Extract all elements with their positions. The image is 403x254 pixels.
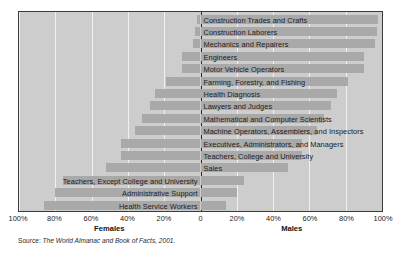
category-label: Machine Operators, Assemblers, and Inspe… xyxy=(204,125,364,138)
bar-female xyxy=(166,77,200,86)
bar-row: Construction Trades and Crafts xyxy=(19,14,382,27)
bar-female xyxy=(142,114,200,123)
bar-row: Teachers, College and University xyxy=(19,150,382,163)
category-label: Farming, Forestry, and Fishing xyxy=(204,76,306,89)
bar-row: Farming, Forestry, and Fishing xyxy=(19,76,382,89)
bar-row: Lawyers and Judges xyxy=(19,100,382,113)
category-label: Health Service Workers xyxy=(119,200,198,213)
bar-row: Executives, Administrators, and Managers xyxy=(19,138,382,151)
category-label: Executives, Administrators, and Managers xyxy=(204,138,344,151)
source-note: Source: The World Almanac and Book of Fa… xyxy=(18,236,175,245)
bar-row: Administrative Support xyxy=(19,187,382,200)
bar-female xyxy=(155,89,200,98)
axis-title-males: Males xyxy=(281,223,302,234)
bar-row: Health Diagnosis xyxy=(19,88,382,101)
source-label: Source: xyxy=(18,237,43,244)
bar-female xyxy=(150,101,201,110)
bar-female xyxy=(193,39,200,48)
category-label: Teachers, Except College and University xyxy=(63,175,198,188)
category-label: Mechanics and Repairers xyxy=(204,38,289,51)
category-label: Construction Laborers xyxy=(204,26,278,39)
bar-row: Mathematical and Computer Scientists xyxy=(19,113,382,126)
axis-title-females: Females xyxy=(94,223,124,234)
category-label: Construction Trades and Crafts xyxy=(204,14,308,27)
gridline-100% xyxy=(382,12,383,211)
category-label: Administrative Support xyxy=(122,187,197,200)
bar-female xyxy=(135,126,200,135)
category-label: Sales xyxy=(204,162,223,175)
category-label: Health Diagnosis xyxy=(204,88,261,101)
category-label: Teachers, College and University xyxy=(204,150,314,163)
bar-female xyxy=(106,163,200,172)
plot-area: Construction Trades and CraftsConstructi… xyxy=(18,11,383,212)
bar-row: Engineers xyxy=(19,51,382,64)
category-label: Motor Vehicle Operators xyxy=(204,63,285,76)
category-label: Mathematical and Computer Scientists xyxy=(204,113,332,126)
bar-female xyxy=(182,52,200,61)
bar-female xyxy=(121,139,201,148)
axis-titles: Females Males xyxy=(18,223,383,234)
source-text: The World Almanac and Book of Facts, 200… xyxy=(43,237,176,244)
bar-row: Machine Operators, Assemblers, and Inspe… xyxy=(19,125,382,138)
bar-row: Health Service Workers xyxy=(19,200,382,213)
bar-male xyxy=(201,201,226,210)
bar-row: Sales xyxy=(19,162,382,175)
chart-page: Construction Trades and CraftsConstructi… xyxy=(0,0,403,254)
category-label: Lawyers and Judges xyxy=(204,100,273,113)
bar-row: Mechanics and Repairers xyxy=(19,38,382,51)
bar-female xyxy=(182,64,200,73)
bar-row: Construction Laborers xyxy=(19,26,382,39)
bar-male xyxy=(201,188,237,197)
bar-male xyxy=(201,176,245,185)
bar-female xyxy=(121,151,201,160)
category-label: Engineers xyxy=(204,51,238,64)
bar-row: Motor Vehicle Operators xyxy=(19,63,382,76)
bar-row: Teachers, Except College and University xyxy=(19,175,382,188)
